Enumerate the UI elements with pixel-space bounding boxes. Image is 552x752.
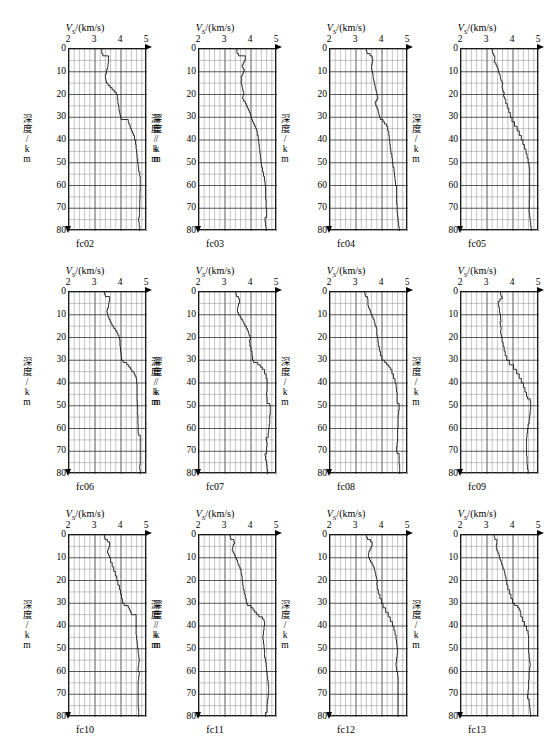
y-tick-labels: 01020304050607080: [303, 48, 327, 230]
x-tick-label: 5: [536, 34, 541, 44]
y-axis-arrow-icon: [326, 469, 332, 476]
panel-caption: fc06: [20, 481, 150, 492]
y-tick-label: 10: [318, 309, 328, 319]
y-tick-label: 30: [187, 354, 197, 364]
y-axis-caption-left: 深度/km: [22, 357, 32, 407]
y-tick-label: 70: [187, 445, 197, 455]
panel-caption: fc04: [281, 238, 411, 249]
x-tick-labels: 2345: [68, 520, 146, 532]
x-tick-labels: 2345: [460, 277, 538, 289]
x-tick-label: 4: [118, 277, 123, 287]
x-tick-label: 2: [327, 34, 332, 44]
x-axis-arrow-icon: [537, 44, 544, 50]
y-tick-label: 70: [57, 688, 67, 698]
y-tick-label: 30: [187, 111, 197, 121]
y-tick-label: 20: [187, 331, 197, 341]
y-tick-label: 20: [318, 331, 328, 341]
x-tick-label: 4: [379, 277, 384, 287]
y-tick-label: 10: [57, 309, 67, 319]
y-tick-label: 40: [57, 620, 67, 630]
plot-area: [329, 534, 407, 716]
x-tick-label: 4: [510, 520, 515, 530]
y-tick-label: 20: [318, 88, 328, 98]
y-tick-label: 0: [191, 286, 196, 296]
y-tick-label: 40: [449, 134, 459, 144]
x-tick-label: 3: [353, 34, 358, 44]
plot-area: [68, 48, 146, 230]
velocity-curve: [199, 535, 277, 717]
x-tick-label: 4: [248, 520, 253, 530]
y-tick-label: 60: [57, 422, 67, 432]
x-tick-label: 5: [536, 520, 541, 530]
x-tick-label: 2: [196, 520, 201, 530]
y-tick-label: 10: [57, 552, 67, 562]
y-tick-labels: 01020304050607080: [42, 48, 66, 230]
y-tick-label: 10: [449, 309, 459, 319]
y-tick-label: 60: [318, 422, 328, 432]
y-tick-labels: 01020304050607080: [434, 48, 458, 230]
y-axis-arrow-icon: [65, 469, 71, 476]
panel-fc11: VS/(km/s)234501020304050607080深度/km深度/km…: [150, 508, 280, 751]
x-tick-label: 4: [118, 34, 123, 44]
panel-fc08: VS/(km/s)234501020304050607080深度/kmfc08: [281, 265, 411, 508]
x-tick-label: 5: [274, 277, 279, 287]
y-tick-labels: 01020304050607080: [172, 534, 196, 716]
x-tick-label: 2: [66, 520, 71, 530]
y-tick-labels: 01020304050607080: [303, 291, 327, 473]
y-axis-caption-left: 深度/km: [152, 114, 162, 164]
x-tick-label: 2: [196, 34, 201, 44]
x-tick-label: 3: [484, 520, 489, 530]
y-tick-labels: 01020304050607080: [42, 534, 66, 716]
x-tick-label: 4: [510, 34, 515, 44]
y-tick-label: 10: [318, 552, 328, 562]
plot-area: [460, 48, 538, 230]
y-tick-label: 40: [318, 377, 328, 387]
y-tick-label: 60: [57, 179, 67, 189]
panel-caption: fc11: [150, 724, 280, 735]
y-tick-label: 60: [449, 665, 459, 675]
y-tick-label: 50: [187, 400, 197, 410]
y-tick-label: 30: [449, 597, 459, 607]
y-tick-label: 0: [453, 286, 458, 296]
y-tick-label: 20: [57, 88, 67, 98]
velocity-depth-profile-figure: VS/(km/s)234501020304050607080深度/km深度/km…: [0, 0, 552, 752]
y-tick-label: 60: [57, 665, 67, 675]
y-tick-label: 50: [449, 157, 459, 167]
x-tick-label: 2: [66, 34, 71, 44]
x-tick-labels: 2345: [460, 34, 538, 46]
y-tick-labels: 01020304050607080: [172, 291, 196, 473]
x-tick-label: 2: [327, 520, 332, 530]
y-tick-label: 30: [318, 111, 328, 121]
x-tick-labels: 2345: [198, 34, 276, 46]
y-tick-label: 20: [449, 331, 459, 341]
plot-area: [460, 534, 538, 716]
y-axis-arrow-icon: [457, 712, 463, 719]
panel-caption: fc07: [150, 481, 280, 492]
y-tick-label: 0: [191, 43, 196, 53]
x-tick-label: 3: [353, 520, 358, 530]
y-tick-label: 20: [318, 574, 328, 584]
y-tick-labels: 01020304050607080: [172, 48, 196, 230]
x-tick-label: 5: [536, 277, 541, 287]
panel-caption: fc03: [150, 238, 280, 249]
y-tick-label: 60: [318, 179, 328, 189]
y-tick-label: 30: [449, 354, 459, 364]
velocity-curve: [330, 292, 408, 474]
y-tick-label: 40: [187, 134, 197, 144]
plot-area: [329, 291, 407, 473]
panel-caption: fc10: [20, 724, 150, 735]
y-tick-label: 30: [57, 111, 67, 121]
y-tick-label: 10: [187, 309, 197, 319]
x-tick-label: 2: [458, 277, 463, 287]
velocity-curve: [199, 292, 277, 474]
y-tick-label: 20: [449, 574, 459, 584]
velocity-curve: [69, 535, 147, 717]
y-tick-label: 20: [449, 88, 459, 98]
x-tick-label: 2: [327, 277, 332, 287]
y-tick-label: 50: [318, 643, 328, 653]
x-tick-label: 2: [458, 34, 463, 44]
y-axis-caption-left: 深度/km: [152, 357, 162, 407]
x-tick-label: 5: [144, 34, 149, 44]
x-tick-label: 4: [248, 277, 253, 287]
x-tick-label: 5: [144, 520, 149, 530]
